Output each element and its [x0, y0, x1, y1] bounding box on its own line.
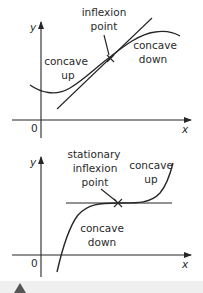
footer-overlay [0, 0, 203, 293]
triangle-marker-icon [14, 283, 26, 293]
